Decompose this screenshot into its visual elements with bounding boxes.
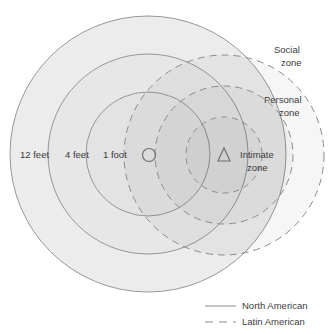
zone-label-intimate-line1: Intimate — [240, 149, 274, 160]
zone-label-personal-line2: zone — [279, 107, 300, 118]
legend-label-latin-american: Latin American — [242, 316, 305, 327]
legend-item-north-american: North American — [205, 300, 307, 311]
diagram-canvas: 12 feet 4 feet 1 foot Social zone Person… — [0, 0, 334, 334]
personal-space-diagram: 12 feet 4 feet 1 foot Social zone Person… — [0, 0, 334, 334]
zone-label-personal-line1: Personal — [264, 94, 302, 105]
legend-label-north-american: North American — [242, 300, 307, 311]
legend-item-latin-american: Latin American — [205, 316, 305, 327]
legend: North American Latin American — [205, 300, 307, 327]
zone-label-intimate-line2: zone — [247, 162, 268, 173]
ring-label-4-feet: 4 feet — [65, 149, 89, 160]
zone-label-social-line2: zone — [281, 57, 302, 68]
ring-label-1-foot: 1 foot — [103, 149, 127, 160]
ring-label-12-feet: 12 feet — [20, 149, 49, 160]
zone-label-social-line1: Social — [274, 44, 300, 55]
